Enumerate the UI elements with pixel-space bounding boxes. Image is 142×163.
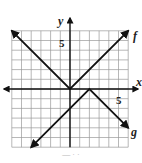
curve-label-g: g [130, 125, 137, 139]
curve-label-f: f [133, 29, 138, 43]
coordinate-plot: y 5 x 5 f g [0, 0, 142, 163]
caption-fragment: — · · [0, 150, 142, 159]
x-axis-label: x [135, 75, 142, 89]
x-tick-label-5: 5 [116, 94, 122, 106]
y-tick-label-5: 5 [59, 37, 65, 49]
y-axis-label: y [56, 14, 64, 28]
